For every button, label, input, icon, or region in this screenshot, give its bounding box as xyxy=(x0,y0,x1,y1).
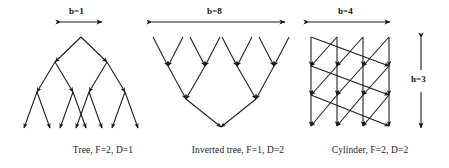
dimension-label-b4: b=4 xyxy=(338,6,353,16)
topology-figure: b=1 b=8 b=4 h=3 Tree, F=2, D=1 Inverted … xyxy=(0,0,449,168)
caption-cylinder: Cylinder, F=2, D=2 xyxy=(305,145,435,155)
panel-inverted-tree-edges xyxy=(153,37,289,127)
caption-tree: Tree, F=2, D=1 xyxy=(43,145,163,155)
figure-canvas xyxy=(0,0,449,168)
dimension-label-b1: b=1 xyxy=(69,6,84,16)
panel-tree-edges xyxy=(24,37,138,128)
dimension-label-b8: b=8 xyxy=(207,6,222,16)
caption-inverted-tree: Inverted tree, F=1, D=2 xyxy=(168,145,308,155)
height-label-h3: h=3 xyxy=(411,74,426,84)
panel-cylinder-edges xyxy=(311,37,389,126)
